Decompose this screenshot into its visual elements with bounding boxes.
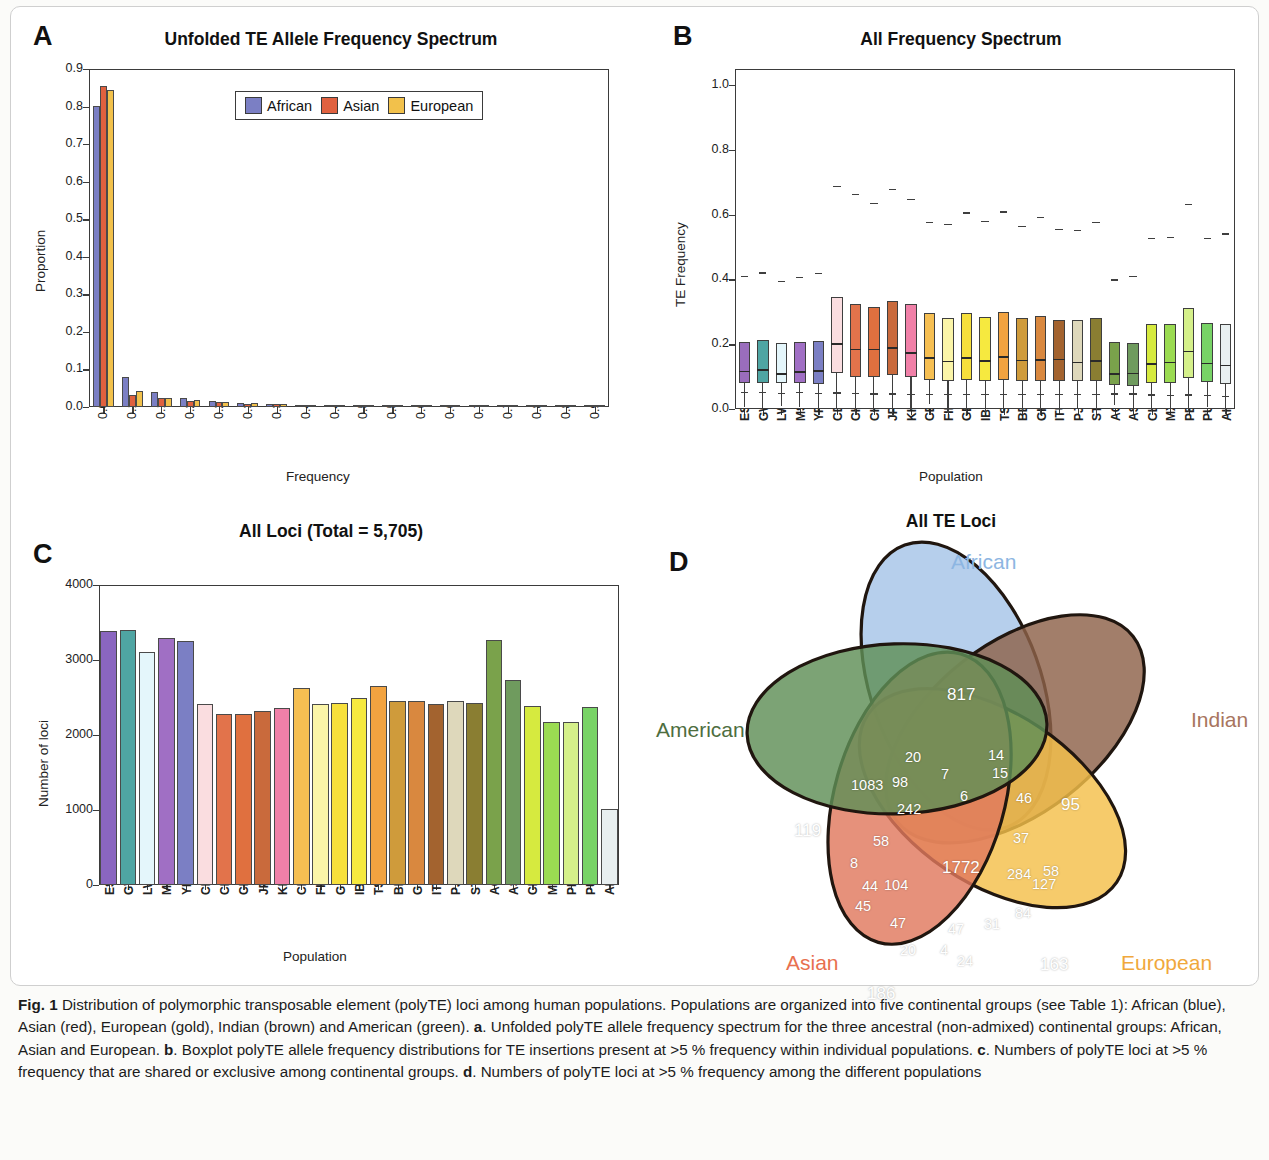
panel-b-xlabel: Population [919,469,983,484]
bar-european-0.85 [569,405,576,407]
panel-b-boxes [735,69,1235,409]
venn-count-44-19: 44 [862,878,878,894]
bar-asian-0.25 [216,402,223,407]
panel-a-letter: A [33,21,53,52]
venn-count-20-1: 20 [905,749,921,765]
whisker-cap-lower [1222,396,1229,397]
bar-asian-0.50 [360,405,367,407]
y-tick-label: 0 [47,877,93,891]
y-tick-label: 0.8 [47,99,83,113]
bar-african-0.30 [237,403,244,407]
y-tick-label: 0.7 [47,136,83,150]
venn-count-45-21: 45 [855,898,871,914]
bar-african-0.45 [324,405,331,407]
legend-item-african: African [245,97,312,114]
panel-a-legend: AfricanAsianEuropean [235,91,483,120]
figure-container: A Unfolded TE Allele Frequency Spectrum … [10,6,1259,986]
bar-GIH [408,701,425,885]
bar-asian-0.20 [187,401,194,407]
panel-b-title: All Frequency Spectrum [711,29,1211,50]
bar-african-0.55 [382,405,389,407]
venn-count-15-4: 15 [992,765,1008,781]
bar-PJL [447,701,464,885]
figure-caption: Fig. 1 Distribution of polymorphic trans… [18,994,1256,1083]
bar-BEB [389,701,406,886]
legend-swatch-european [388,97,405,114]
bar-CHS [235,714,252,885]
bar-asian-0.35 [273,404,280,407]
bar-asian-0.80 [533,405,540,407]
bar-asian-0.60 [418,405,425,407]
whisker-cap-upper [1222,233,1229,234]
bar-african-0.20 [180,398,187,407]
y-tick-label: 0.6 [689,207,729,221]
bar-european-0.05 [107,90,114,407]
bar-european-0.40 [309,405,316,407]
bar-asian-0.05 [100,86,107,407]
panel-c-letter: C [33,539,53,570]
y-tick-mark [729,409,735,410]
panel-c-title: All Loci (Total = 5,705) [71,521,591,542]
venn-count-37-13: 37 [1013,830,1029,846]
bar-asian-0.10 [129,395,136,407]
bar-ITU [428,704,445,886]
panel-a-ylabel: Proportion [33,230,48,292]
panel-a-xlabel: Frequency [286,469,350,484]
bar-ACB [486,640,503,885]
panel-d: D All TE Loci AfricanIndianEuropeanAsian… [651,497,1260,987]
bar-european-0.45 [338,405,345,407]
venn-label-indian: Indian [1191,708,1248,732]
venn-count-58-12: 58 [873,833,889,849]
bar-MSL [158,638,175,885]
bar-asian-0.70 [476,405,483,407]
y-tick-label: 1.0 [689,77,729,91]
panel-b-ylabel: TE Frequency [673,222,688,307]
y-tick-label: 0.2 [689,336,729,350]
bar-CLM [524,706,541,885]
bar-JPT [254,711,271,885]
venn-count-104-20: 104 [884,877,908,893]
venn-count-47-23: 47 [890,915,906,931]
bar-IBS [351,698,368,885]
bar-FIN [312,704,329,886]
legend-swatch-asian [321,97,338,114]
bar-african-0.35 [266,404,273,407]
bar-asian-0.45 [331,405,338,407]
bar-european-0.20 [194,400,201,407]
bar-african-0.70 [469,405,476,407]
bar-european-0.80 [540,405,547,407]
y-tick-label: 0.1 [47,361,83,375]
panel-c-xlabel: Population [283,949,347,964]
y-tick-mark [93,885,99,886]
panel-c: C All Loci (Total = 5,705) Number of loc… [11,497,651,987]
bar-european-0.65 [454,405,461,407]
bar-asian-0.85 [562,405,569,407]
legend-swatch-african [245,97,262,114]
bar-european-0.30 [251,403,258,407]
bar-CEU [293,688,310,885]
bar-ASW [505,680,522,885]
bar-european-0.15 [165,398,172,407]
bar-asian-0.15 [158,398,165,407]
bar-TSI [370,686,387,885]
y-tick-label: 4000 [47,577,93,591]
y-tick-label: 0.9 [47,61,83,75]
bar-african-0.50 [353,405,360,407]
venn-label-american: American [656,718,745,742]
bar-european-0.25 [222,402,229,407]
bar-MXL [543,722,560,886]
figure-page: A Unfolded TE Allele Frequency Spectrum … [0,0,1269,1160]
venn-count-95-9: 95 [1061,795,1080,815]
y-tick-label: 1000 [47,802,93,816]
bar-european-0.75 [511,405,518,407]
bar-asian-0.55 [389,405,396,407]
bar-PEL [563,722,580,885]
venn-count-8-14: 8 [850,855,858,871]
legend-label-asian: Asian [343,98,379,114]
y-tick-label: 0.2 [47,324,83,338]
bar-KHV [274,708,291,885]
y-tick-label: 0.0 [689,401,729,415]
panel-b: B All Frequency Spectrum TE Frequency Po… [651,7,1260,497]
legend-item-asian: Asian [321,97,379,114]
venn-count-119-11: 119 [794,821,821,841]
